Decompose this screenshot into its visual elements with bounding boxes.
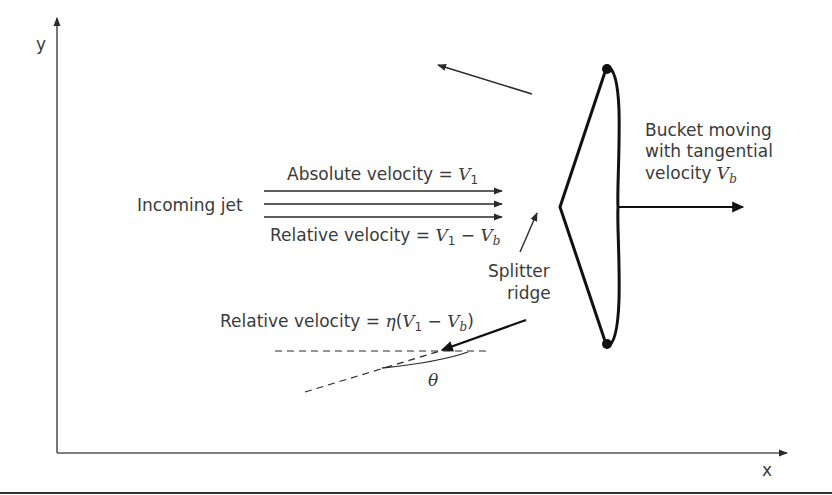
sub-1: 1 (470, 173, 478, 187)
incoming-jet-label: Incoming jet (137, 195, 243, 215)
splitter-pointer-arrow (520, 213, 537, 252)
sub-b: b (493, 234, 501, 248)
bucket-label-line3: velocity Vb (645, 163, 737, 186)
exit-direction-dashed (305, 351, 440, 392)
exit-relative-text: Relative velocity = (220, 311, 385, 331)
bucket-velocity-text: velocity (645, 163, 717, 183)
theta-arc (382, 352, 468, 368)
splitter-label-line2: ridge (507, 283, 551, 303)
bucket-top-tip (602, 64, 612, 74)
bucket-bottom-tip (602, 339, 612, 349)
sub-1: 1 (415, 320, 423, 334)
absolute-velocity-label: Absolute velocity = V1 (287, 164, 478, 187)
x-axis-label: x (762, 460, 772, 480)
absolute-velocity-text: Absolute velocity = (287, 164, 458, 184)
sub-1: 1 (448, 234, 456, 248)
paren-close: ) (467, 311, 474, 331)
diagram-svg: y x Incoming jet Absolute velocity = V1 … (0, 0, 832, 495)
bucket-shape (560, 66, 619, 347)
diagram-canvas: y x Incoming jet Absolute velocity = V1 … (0, 0, 832, 495)
upper-exit-arrow (438, 65, 532, 94)
bucket-label-line1: Bucket moving (645, 120, 772, 140)
axes: y x (36, 18, 787, 480)
y-axis-label: y (36, 34, 46, 54)
bucket-label-line2: with tangential (645, 141, 773, 161)
theta-label: θ (428, 370, 438, 390)
incoming-jet: Incoming jet (137, 191, 502, 217)
sub-b: b (460, 320, 468, 334)
exit-relative-velocity-label: Relative velocity = η(V1 − Vb) (220, 311, 474, 334)
minus: − (422, 311, 447, 331)
sub-b: b (729, 172, 737, 186)
paren-open: ( (396, 311, 403, 331)
relative-velocity-label: Relative velocity = V1 − Vb (270, 225, 500, 248)
splitter-label-line1: Splitter (488, 261, 550, 281)
minus: − (455, 225, 480, 245)
relative-velocity-text: Relative velocity = (270, 225, 435, 245)
bucket-label: Bucket moving with tangential velocity V… (645, 120, 773, 186)
